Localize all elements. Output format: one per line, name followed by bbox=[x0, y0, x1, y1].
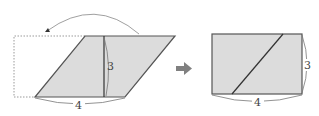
parallelogram-to-rectangle-diagram: 3 4 3 4 bbox=[0, 0, 319, 116]
rectangle-height-label: 3 bbox=[304, 59, 311, 72]
curved-arrow-icon bbox=[47, 14, 139, 34]
parallelogram-base-label: 4 bbox=[75, 99, 82, 112]
right-arrow-icon bbox=[176, 62, 192, 75]
parallelogram-height-label: 3 bbox=[107, 60, 114, 73]
parallelogram bbox=[35, 36, 175, 97]
arrowhead-icon bbox=[45, 28, 50, 32]
rectangle-base-label: 4 bbox=[254, 96, 261, 109]
